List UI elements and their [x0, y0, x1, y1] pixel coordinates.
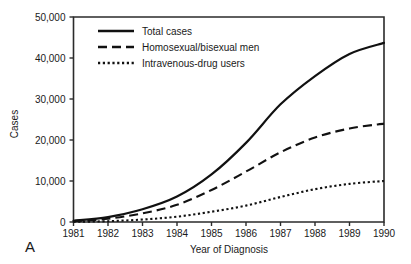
y-axis-tick-labels: 010,00020,00030,00040,00050,000 [35, 12, 66, 228]
y-axis-title: Cases [9, 110, 20, 138]
y-tick-label: 30,000 [35, 94, 66, 105]
x-tick-label: 1989 [338, 228, 361, 239]
legend-label-homosexual-bisexual-men: Homosexual/bisexual men [142, 42, 259, 53]
x-axis-title: Year of Diagnosis [190, 244, 268, 255]
y-tick-label: 50,000 [35, 12, 66, 23]
series-line-homosexual-bisexual-men [74, 124, 385, 222]
x-axis-tick-labels: 1981198219831984198519861987198819891990 [62, 228, 395, 239]
chart-legend: Total cases Homosexual/bisexual men Intr… [98, 26, 259, 69]
line-chart: 010,00020,00030,00040,00050,000 19811982… [0, 0, 411, 264]
data-series-group [74, 43, 385, 222]
x-tick-label: 1982 [97, 228, 120, 239]
figure-panel-a: 010,00020,00030,00040,00050,000 19811982… [0, 0, 411, 264]
y-tick-label: 0 [60, 217, 66, 228]
y-tick-label: 20,000 [35, 135, 66, 146]
x-tick-label: 1981 [62, 228, 85, 239]
x-tick-label: 1990 [373, 228, 396, 239]
x-tick-label: 1987 [269, 228, 292, 239]
x-tick-label: 1984 [166, 228, 189, 239]
panel-label-a: A [25, 238, 35, 255]
x-tick-label: 1985 [200, 228, 223, 239]
x-tick-label: 1983 [131, 228, 154, 239]
x-tick-label: 1988 [304, 228, 327, 239]
x-tick-label: 1986 [235, 228, 258, 239]
legend-label-intravenous-drug-users: Intravenous-drug users [142, 58, 245, 69]
legend-label-total-cases: Total cases [142, 26, 192, 37]
y-tick-label: 10,000 [35, 176, 66, 187]
y-tick-label: 40,000 [35, 53, 66, 64]
